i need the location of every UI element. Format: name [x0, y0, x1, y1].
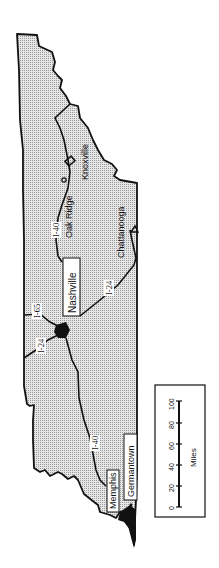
svg-text:Nashville: Nashville: [67, 272, 78, 313]
svg-text:Germantown: Germantown: [126, 445, 136, 497]
scale-tick-0: 0: [168, 506, 175, 510]
scale-tick-60: 60: [168, 442, 175, 450]
city-label-germantown: Germantown: [124, 434, 137, 500]
highway-label-i24-west: I-24: [36, 338, 46, 354]
scale-tick-20: 20: [168, 484, 175, 492]
highway-label-i24-east: I-24: [104, 280, 114, 296]
city-label-memphis: Memphis: [107, 470, 119, 512]
highway-label-i65: I-65: [32, 303, 42, 319]
scale-tick-100: 100: [168, 398, 175, 410]
scale-bar: 0 20 40 60 80 100 Miles: [155, 385, 205, 517]
city-label-chattanooga: Chattanooga: [116, 206, 126, 258]
highway-label-i40-east: I-40: [51, 222, 61, 238]
scale-unit-label: Miles: [189, 448, 198, 467]
svg-text:I-40: I-40: [90, 436, 100, 450]
city-label-nashville: Nashville: [63, 258, 80, 316]
scale-tick-40: 40: [168, 463, 175, 471]
city-label-oak-ridge: Oak Ridge: [64, 195, 74, 238]
svg-text:I-24: I-24: [36, 338, 46, 353]
svg-text:I-24: I-24: [104, 280, 114, 295]
tennessee-map: Knoxville Oak Ridge Chattanooga Nashvill…: [0, 0, 219, 568]
scale-tick-80: 80: [168, 421, 175, 429]
highway-label-i40-west: I-40: [90, 435, 100, 451]
svg-text:I-40: I-40: [51, 223, 61, 237]
germantown-marker: [130, 504, 133, 507]
svg-text:Memphis: Memphis: [108, 472, 118, 509]
city-label-knoxville: Knoxville: [80, 144, 90, 180]
svg-text:I-65: I-65: [32, 304, 42, 318]
